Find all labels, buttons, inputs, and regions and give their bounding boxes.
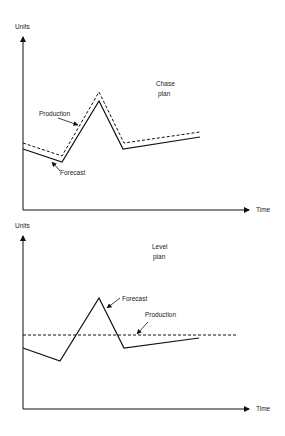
chase-plan-chart: Units Time Chase plan Production Forecas… <box>15 23 271 213</box>
production-callout-arrow <box>58 118 78 125</box>
forecast-line <box>23 298 199 361</box>
production-line <box>23 92 200 156</box>
level-plan-chart: Units Time Level plan Forecast Productio… <box>15 222 271 412</box>
production-callout-label: Production <box>145 311 176 318</box>
panel-title-line2: plan <box>153 253 166 261</box>
y-axis-label: Units <box>15 23 31 30</box>
x-axis-label: Time <box>256 206 271 213</box>
panel-title-line1: Chase <box>156 80 175 87</box>
panel-title-line1: Level <box>152 243 168 250</box>
forecast-callout-arrow <box>107 298 120 308</box>
panel-title-line2: plan <box>158 90 171 98</box>
forecast-callout-label: Forecast <box>60 169 85 176</box>
y-axis-label: Units <box>15 222 31 229</box>
forecast-callout-arrow <box>52 162 60 171</box>
x-axis-label: Time <box>256 405 271 412</box>
production-callout-label: Production <box>39 110 70 117</box>
forecast-callout-label: Forecast <box>122 295 147 302</box>
production-callout-arrow <box>137 322 148 334</box>
diagram-canvas: Units Time Chase plan Production Forecas… <box>0 0 285 436</box>
